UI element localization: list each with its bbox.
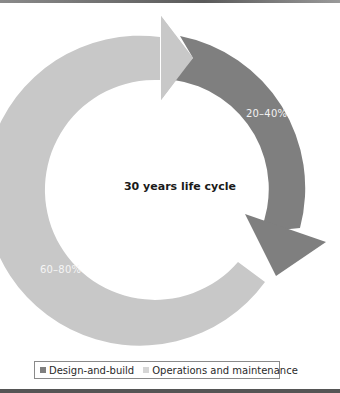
bottom-rule <box>0 389 340 393</box>
legend-label: Design-and-build <box>49 365 134 376</box>
legend-swatch-icon <box>143 367 149 373</box>
label-operations-percent: 60–80% <box>40 264 81 275</box>
chart-legend: Design-and-build Operations and maintena… <box>34 361 280 379</box>
segment-design-build <box>174 36 305 232</box>
center-label: 30 years life cycle <box>100 180 260 193</box>
label-design-build-percent: 20–40% <box>246 108 287 119</box>
legend-item-design-build: Design-and-build <box>40 365 134 376</box>
legend-item-operations: Operations and maintenance <box>143 365 298 376</box>
arrowhead-operations-overlay <box>161 16 193 100</box>
legend-label: Operations and maintenance <box>152 365 298 376</box>
lifecycle-donut-chart <box>0 0 340 393</box>
legend-swatch-icon <box>40 367 46 373</box>
